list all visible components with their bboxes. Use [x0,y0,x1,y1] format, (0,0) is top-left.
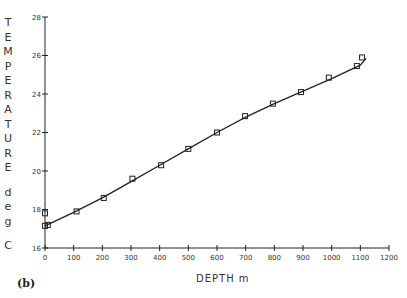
svg-text:26: 26 [32,52,41,60]
y-axis-label-char: e [3,200,13,213]
svg-text:18: 18 [32,206,41,214]
y-axis-label-char: A [3,103,13,116]
svg-text:24: 24 [32,91,41,99]
svg-text:400: 400 [153,254,166,262]
y-axis-label-char: E [3,74,13,87]
y-axis-label-char: M [3,45,13,58]
data-point [360,55,365,60]
y-axis-label-char: C [3,239,13,252]
svg-text:600: 600 [210,254,223,262]
svg-text:900: 900 [296,254,309,262]
y-axis-label-char: g [3,215,13,228]
chart-plot: 0100200300400500600700800900100011001200… [0,0,407,298]
svg-text:16: 16 [32,245,41,253]
svg-text:1100: 1100 [351,254,369,262]
svg-text:200: 200 [96,254,109,262]
svg-text:500: 500 [182,254,195,262]
data-points [43,55,365,228]
y-axis-label-char: T [3,16,13,29]
svg-text:800: 800 [268,254,281,262]
y-axis-label-char: d [3,186,13,199]
y-axis-label-char: R [3,147,13,160]
y-axis-label-char: E [3,161,13,174]
svg-text:100: 100 [67,254,80,262]
svg-text:22: 22 [32,129,41,137]
tick-labels: 0100200300400500600700800900100011001200… [32,14,398,263]
svg-text:700: 700 [239,254,252,262]
svg-text:1000: 1000 [323,254,341,262]
panel-label: (b) [17,277,35,290]
x-axis-label: DEPTH m [196,273,250,284]
svg-text:0: 0 [43,254,47,262]
y-axis-label-char: U [3,132,13,145]
y-axis-label-char: T [3,118,13,131]
y-axis-label-char: R [3,89,13,102]
svg-text:20: 20 [32,168,41,176]
y-axis-label-char: P [3,60,13,73]
fit-line [45,58,366,226]
svg-text:300: 300 [124,254,137,262]
svg-text:1200: 1200 [380,254,398,262]
y-axis-label-char: E [3,31,13,44]
svg-text:28: 28 [32,14,41,22]
